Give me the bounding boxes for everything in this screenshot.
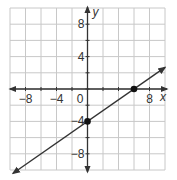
y-axis-label: y (92, 5, 100, 19)
x-tick-label: 8 (146, 92, 153, 106)
origin-label: 0 (77, 92, 84, 106)
y-tick-label: 4 (78, 50, 85, 64)
coordinate-plane: −8−4884−4−80xy (0, 0, 177, 180)
y-tick-label: −8 (71, 147, 85, 161)
y-tick-label: 8 (78, 17, 85, 31)
x-tick-label: −4 (50, 92, 64, 106)
y-tick-label: −4 (71, 114, 85, 128)
data-point (84, 118, 91, 125)
x-tick-label: −8 (19, 92, 33, 106)
data-point (131, 86, 138, 93)
axes (10, 7, 167, 172)
x-axis-label: x (159, 90, 167, 104)
